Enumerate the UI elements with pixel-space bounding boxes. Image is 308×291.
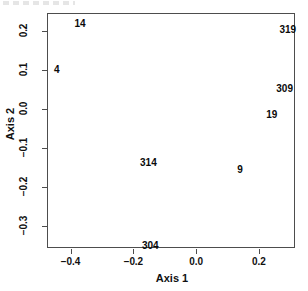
y-axis-tick-label: −0.1 [18,135,29,161]
x-axis-tick [71,249,72,254]
data-point-label: 304 [130,240,170,252]
x-axis-tick [259,249,260,254]
x-axis-title: Axis 1 [0,272,308,284]
data-point-label: 9 [220,164,260,176]
y-axis-tick-label: 0.2 [18,17,29,43]
data-point-label: 19 [252,109,292,121]
data-point-label: 314 [128,157,168,169]
y-axis-tick-label: −0.2 [18,174,29,200]
x-axis-tick-label: −0.4 [54,256,88,267]
y-axis-title: Axis 2 [4,94,16,154]
data-point-label: 309 [265,83,305,95]
x-axis-tick-label: −0.2 [116,256,150,267]
x-axis-tick-label: 0.0 [179,256,213,267]
scatter-plot: 0.20.10.0−0.1−0.2−0.3 −0.4−0.20.00.2 Axi… [0,0,308,291]
x-axis-tick [196,249,197,254]
x-axis-tick-label: 0.2 [242,256,276,267]
y-axis-tick-label: 0.0 [18,95,29,121]
data-point-label: 14 [60,18,100,30]
top-edge-artifact [3,1,75,5]
data-point-label: 4 [37,64,77,76]
y-axis-tick-label: −0.3 [18,213,29,239]
y-axis-tick-label: 0.1 [18,56,29,82]
data-point-label: 319 [268,24,308,36]
plot-data-area [47,13,295,248]
